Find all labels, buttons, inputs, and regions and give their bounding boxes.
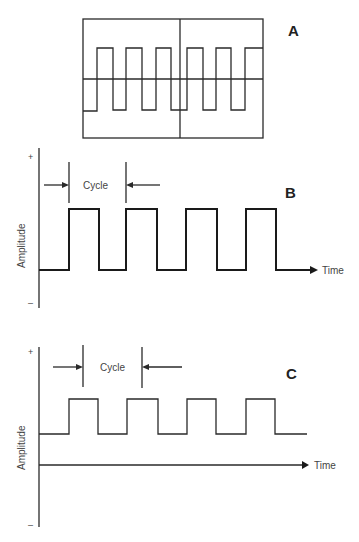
panel-label-b: B — [285, 184, 296, 201]
minus-sign-c: – — [28, 520, 33, 530]
panel-label-c: C — [286, 365, 297, 382]
minus-sign-b: – — [28, 298, 33, 308]
plus-sign-c: + — [28, 347, 33, 357]
cycle-arrowhead-right-b — [126, 182, 133, 188]
y-axis-label-c: Amplitude — [16, 425, 27, 470]
cycle-label-c: Cycle — [100, 362, 125, 373]
panel-c: + – Amplitude Time Cycle C — [16, 345, 336, 530]
time-arrow-head-b — [310, 266, 318, 274]
cycle-arrowhead-left-b — [62, 182, 69, 188]
square-wave-b — [39, 209, 310, 270]
time-arrow-head-c — [302, 461, 309, 469]
x-axis-label-c: Time — [314, 460, 336, 471]
cycle-label-b: Cycle — [83, 180, 108, 191]
panel-label-a: A — [288, 22, 299, 39]
plus-sign-b: + — [28, 152, 33, 162]
panel-b: + – Amplitude Time Cycle B — [16, 148, 344, 308]
y-axis-label-b: Amplitude — [16, 223, 27, 268]
panel-a: A — [83, 19, 299, 138]
square-wave-c — [39, 399, 307, 434]
cycle-arrowhead-left-c — [76, 364, 83, 370]
x-axis-label-b: Time — [322, 265, 344, 276]
cycle-arrowhead-right-c — [142, 364, 149, 370]
waveform-diagram: A + – Amplitude Time Cycle B + – Amplitu… — [0, 0, 359, 542]
